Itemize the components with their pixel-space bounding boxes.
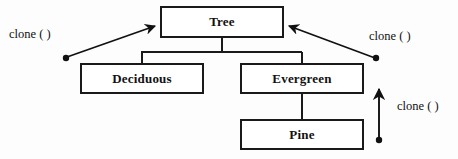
- node-evergreen[interactable]: Evergreen: [240, 63, 364, 94]
- node-deciduous[interactable]: Deciduous: [80, 63, 204, 94]
- annotation-anchor-dot-left: [63, 55, 69, 61]
- node-pine-label: Pine: [289, 127, 314, 143]
- annotation-label-clone-right: clone ( ): [369, 29, 411, 44]
- class-inheritance-diagram: Tree Deciduous Evergreen Pine clone ( ) …: [0, 0, 458, 159]
- node-pine[interactable]: Pine: [240, 119, 364, 150]
- annotation-arrow-clone-bottom: [376, 89, 382, 143]
- annotation-anchor-dot-bottom: [376, 137, 382, 143]
- node-tree-label: Tree: [209, 14, 235, 30]
- node-tree[interactable]: Tree: [160, 6, 284, 38]
- edge-tree-to-children: [141, 38, 302, 63]
- annotation-label-clone-left: clone ( ): [9, 27, 51, 42]
- node-evergreen-label: Evergreen: [272, 71, 331, 87]
- annotation-label-clone-bottom: clone ( ): [397, 99, 439, 114]
- annotation-anchor-dot-right: [373, 55, 379, 61]
- node-deciduous-label: Deciduous: [112, 71, 172, 87]
